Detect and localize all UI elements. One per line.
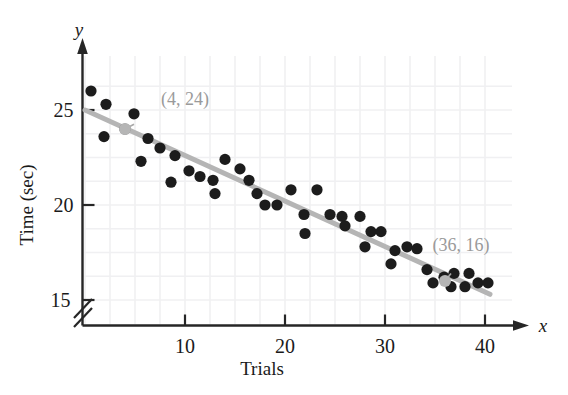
- data-point: [243, 175, 254, 186]
- x-axis-title: Trials: [240, 358, 284, 379]
- y-axis-arrow-icon: [77, 38, 88, 54]
- data-point: [385, 258, 396, 269]
- data-point: [98, 131, 109, 142]
- data-point: [183, 165, 194, 176]
- data-point: [339, 220, 350, 231]
- data-point: [459, 281, 470, 292]
- x-axis-variable-label: x: [538, 315, 548, 336]
- data-point: [154, 142, 165, 153]
- data-point: [336, 211, 347, 222]
- x-tick-label-30: 30: [375, 335, 395, 357]
- highlighted-data-point: [439, 275, 451, 287]
- data-point: [427, 277, 438, 288]
- data-point: [271, 199, 282, 210]
- data-point: [359, 241, 370, 252]
- data-point: [411, 243, 422, 254]
- data-point: [169, 150, 180, 161]
- data-point: [389, 245, 400, 256]
- y-axis-variable-label: y: [73, 19, 84, 40]
- data-point: [234, 163, 245, 174]
- annotation-label-point-4-24: (4, 24): [161, 89, 209, 110]
- data-point: [298, 209, 309, 220]
- data-point: [207, 175, 218, 186]
- data-point: [165, 177, 176, 188]
- data-point: [421, 264, 432, 275]
- data-point: [482, 277, 493, 288]
- data-point: [375, 226, 386, 237]
- data-point: [128, 108, 139, 119]
- data-point: [259, 199, 270, 210]
- x-axis-arrow-icon: [513, 320, 529, 331]
- data-point: [299, 228, 310, 239]
- data-point: [472, 277, 483, 288]
- data-point: [142, 133, 153, 144]
- y-tick-label-20: 20: [54, 194, 74, 216]
- data-point: [354, 211, 365, 222]
- data-point: [209, 188, 220, 199]
- highlighted-data-point: [119, 123, 131, 135]
- y-tick-label-25: 25: [54, 99, 74, 121]
- y-axis-title: Time (sec): [16, 164, 38, 245]
- annotation-label-point-36-16: (36, 16): [433, 235, 490, 256]
- x-tick-label-20: 20: [275, 335, 295, 357]
- scatter-plot-svg: 25 20 15 10 20 30 40 y x Trials Time (se…: [0, 0, 568, 395]
- data-point: [285, 184, 296, 195]
- data-point: [324, 209, 335, 220]
- data-point: [463, 268, 474, 279]
- data-point: [311, 184, 322, 195]
- data-point: [365, 226, 376, 237]
- data-point: [194, 171, 205, 182]
- data-point: [401, 241, 412, 252]
- data-point: [85, 85, 96, 96]
- x-tick-label-10: 10: [175, 335, 195, 357]
- data-points: [85, 85, 493, 292]
- y-tick-label-15: 15: [51, 289, 71, 311]
- data-point: [100, 99, 111, 110]
- data-point: [135, 156, 146, 167]
- chart-figure: 25 20 15 10 20 30 40 y x Trials Time (se…: [0, 0, 568, 395]
- data-point: [219, 154, 230, 165]
- data-point: [251, 188, 262, 199]
- x-tick-label-40: 40: [475, 335, 495, 357]
